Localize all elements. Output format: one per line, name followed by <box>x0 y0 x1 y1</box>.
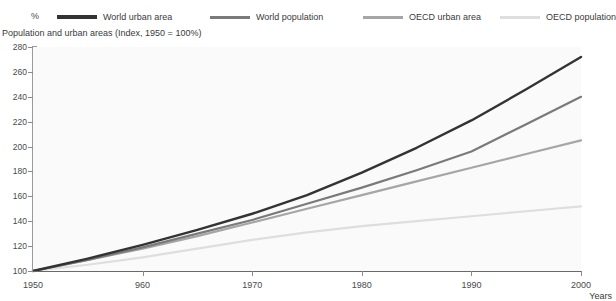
legend-swatch-oecd-urban-area <box>363 16 403 19</box>
series-lines <box>33 47 581 271</box>
plot-area: 280260240220200180160140120100 195096019… <box>0 40 615 298</box>
legend-swatch-world-population <box>210 16 250 19</box>
y-tick-200 <box>28 147 33 148</box>
legend-item-oecd-population: OECD population <box>500 9 616 25</box>
x-axis-title: Years <box>589 291 612 301</box>
y-tick-label-100: 100 <box>1 266 27 276</box>
y-tick-180 <box>28 171 33 172</box>
legend-label-world-population: World population <box>256 12 323 22</box>
y-tick-280 <box>28 47 33 48</box>
y-tick-120 <box>28 246 33 247</box>
x-tick-1960 <box>143 271 144 276</box>
legend-item-world-population: World population <box>210 9 323 25</box>
chart-legend: % World urban area World population OECD… <box>0 9 615 25</box>
y-tick-220 <box>28 122 33 123</box>
y-axis-unit-label: % <box>31 11 39 21</box>
y-tick-label-220: 220 <box>1 117 27 127</box>
legend-label-oecd-urban-area: OECD urban area <box>409 12 481 22</box>
y-tick-label-180: 180 <box>1 166 27 176</box>
line-world-urban-area <box>33 57 581 271</box>
x-tick-label-1970: 1970 <box>242 280 262 290</box>
x-tick-2000 <box>581 271 582 276</box>
x-tick-label-1990: 1990 <box>461 280 481 290</box>
line-oecd-population <box>33 206 581 271</box>
y-tick-label-200: 200 <box>1 142 27 152</box>
y-tick-label-280: 280 <box>1 42 27 52</box>
y-tick-100 <box>28 271 33 272</box>
top-cutoff-strip <box>0 0 615 7</box>
plot-background <box>33 47 581 271</box>
legend-item-oecd-urban-area: OECD urban area <box>363 9 481 25</box>
legend-label-world-urban-area: World urban area <box>103 12 172 22</box>
y-tick-label-140: 140 <box>1 216 27 226</box>
x-tick-label-1960: 960 <box>135 280 150 290</box>
y-tick-240 <box>28 97 33 98</box>
y-axis-line <box>32 46 33 272</box>
y-tick-label-240: 240 <box>1 92 27 102</box>
y-tick-260 <box>28 72 33 73</box>
y-tick-label-120: 120 <box>1 241 27 251</box>
x-axis-line <box>32 271 582 272</box>
y-tick-140 <box>28 221 33 222</box>
x-tick-label-2000: 2000 <box>571 280 591 290</box>
y-tick-label-160: 160 <box>1 191 27 201</box>
legend-swatch-world-urban-area <box>57 15 97 19</box>
y-tick-label-260: 260 <box>1 67 27 77</box>
x-tick-label-1980: 1980 <box>352 280 372 290</box>
line-world-population <box>33 97 581 271</box>
x-tick-1970 <box>252 271 253 276</box>
legend-item-world-urban-area: World urban area <box>57 9 172 25</box>
legend-swatch-oecd-population <box>500 16 540 19</box>
x-tick-1990 <box>471 271 472 276</box>
chart-subtitle: Population and urban areas (Index, 1950 … <box>2 28 201 38</box>
x-tick-label-1950: 1950 <box>23 280 43 290</box>
legend-label-oecd-population: OECD population <box>546 12 616 22</box>
y-tick-160 <box>28 196 33 197</box>
x-tick-1980 <box>362 271 363 276</box>
